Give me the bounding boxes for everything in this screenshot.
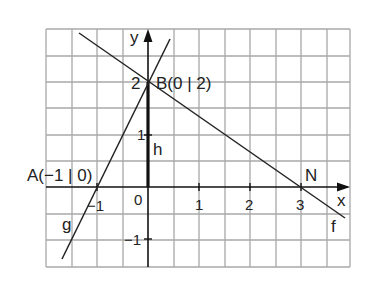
tick-label-y-1: 1	[137, 126, 145, 143]
axes	[46, 36, 348, 267]
tick-label-origin: 0	[134, 191, 142, 208]
line-label-g: g	[62, 215, 71, 234]
y-axis-label: y	[130, 28, 139, 47]
tick-label-x-2: 2	[245, 196, 253, 213]
segment-label-h: h	[153, 140, 162, 159]
tick-label-y-2: 2	[131, 74, 140, 93]
tick-label-y-minus1: −1	[124, 231, 141, 248]
grid	[46, 29, 350, 267]
tick-label-x-3: 3	[296, 196, 304, 213]
tick-label-x-minus1: −1	[87, 197, 104, 214]
y-axis-arrow-icon	[144, 29, 153, 42]
point-label-a: A(−1 | 0)	[27, 166, 92, 185]
tick-label-x-1: 1	[195, 196, 203, 213]
x-axis-label: x	[337, 191, 346, 210]
point-label-n: N	[305, 166, 317, 185]
line-label-f: f	[331, 217, 336, 236]
coordinate-diagram: y x −1 0 1 2 3 −1 1 2 B(0 | 2) A(−1 | 0)…	[0, 0, 371, 295]
point-label-b: B(0 | 2)	[156, 74, 211, 93]
line-f	[79, 33, 345, 218]
